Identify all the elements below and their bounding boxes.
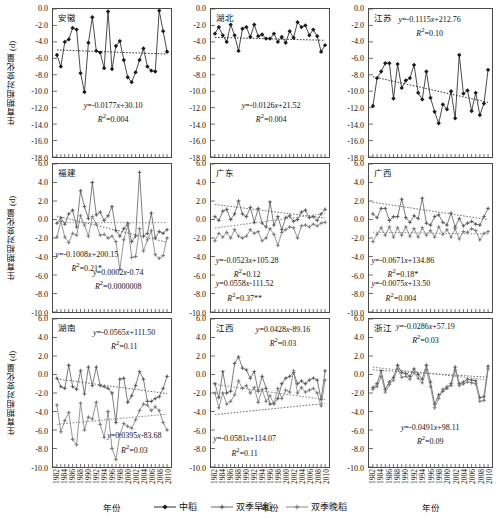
plot-area: 广东y=-0.0523x+105.28R2=0.12y=0.0558x-111.… <box>210 163 330 313</box>
plot-area-wrapper: 安徽y=-0.0177x+30.10R2=0.004 <box>52 8 172 158</box>
panel-title: 江苏 <box>373 11 393 23</box>
panel-row-2: 生育期相对变化量 (d) 6.04.02.00.0-2.0-4.0-6.0-8.… <box>0 163 501 320</box>
panel-anhui: 0.0-2.0-4.0-6.0-8.0-10.0-12.0-14.0-16.0-… <box>22 8 172 158</box>
regression-equation: y=-0.0126x+21.52R2=0.004 <box>242 101 301 126</box>
y-tick-label: -8.0 <box>193 290 206 299</box>
equation-r2: R2=0.03 <box>396 332 455 346</box>
equation-r2: R2=0.0000008 <box>93 278 143 292</box>
x-tick-labels: 1982198419861988199019921994199619982000… <box>52 469 172 501</box>
y-tick-label: 2.0 <box>354 351 364 360</box>
diamond-marker-icon <box>154 502 176 512</box>
equation-text: y=-0.0581x+114.07 <box>213 434 276 445</box>
equation-r2: R2=0.11 <box>213 445 276 459</box>
regression-equation: y=0.0428x-89.16R2=0.03 <box>256 325 310 350</box>
panel-title: 安徽 <box>57 11 77 23</box>
equation-r2: R2=0.18* <box>371 266 434 280</box>
y-tick-label: -10.0 <box>347 464 364 473</box>
y-tick-label: -10.0 <box>347 87 364 96</box>
y-tick-label: 2.0 <box>196 351 206 360</box>
y-tick-label: -6.0 <box>193 271 206 280</box>
x-tick-label: 2000 <box>443 469 452 484</box>
equation-r2: R2=0.37** <box>216 290 274 304</box>
y-tick-label: -14.0 <box>189 120 206 129</box>
panel-title: 福建 <box>57 166 77 178</box>
y-tick-label: 6.0 <box>354 314 364 323</box>
plot-area: 湖南y=-0.0565x+111.50R2=0.11y=0.0395x-83.6… <box>52 318 172 468</box>
panel-title: 广东 <box>215 166 235 178</box>
y-tick-label: 6.0 <box>354 159 364 168</box>
y-tick-label: 0.0 <box>354 4 364 13</box>
y-tick-label: -4.0 <box>193 407 206 416</box>
panel-hubei: 0.0-2.0-4.0-6.0-8.0-10.0-12.0-14.0-16.0-… <box>180 8 330 158</box>
y-tick-label: -2.0 <box>35 389 48 398</box>
regression-equation: y=0.0002x-0.74R2=0.0000008 <box>93 268 143 293</box>
y-tick-label: 0.0 <box>354 215 364 224</box>
legend-label: 双季早稻 <box>236 500 272 513</box>
y-tick-label: -6.0 <box>351 426 364 435</box>
regression-equation: y=-0.0177x+30.10R2=0.004 <box>84 101 143 126</box>
equation-text: y=0.0002x-0.74 <box>93 268 143 279</box>
y-tick-label: 2.0 <box>196 196 206 205</box>
regression-equation: y=-0.0581x+114.07R2=0.11 <box>213 434 276 459</box>
y-tick-label: -6.0 <box>351 54 364 63</box>
equation-text: y=-0.0523x+105.28 <box>216 256 279 267</box>
y-axis-ticks: 0.0-2.0-4.0-6.0-8.0-10.0-12.0-14.0-16.0-… <box>22 8 50 158</box>
y-tick-label: -4.0 <box>35 252 48 261</box>
regression-equation: y=-0.0286x+57.19R2=0.03 <box>396 322 455 347</box>
y-tick-label: -4.0 <box>351 252 364 261</box>
plot-area: 安徽y=-0.0177x+30.10R2=0.004 <box>52 8 172 158</box>
y-tick-label: -2.0 <box>351 234 364 243</box>
plot-area-wrapper: 湖南y=-0.0565x+111.50R2=0.11y=0.0395x-83.6… <box>52 318 172 468</box>
panel-guangxi: 6.04.02.00.0-2.0-4.0-6.0-8.0-10.0广西y=-0.… <box>338 163 493 313</box>
equation-r2: R2=0.11 <box>93 338 155 352</box>
plot-area: 福建y=-0.1008x+200.15R2=0.21*y=0.0002x-0.7… <box>52 163 172 313</box>
equation-text: y=-0.0565x+111.50 <box>93 328 155 339</box>
regression-equation: y=-0.0565x+111.50R2=0.11 <box>93 328 155 353</box>
y-tick-label: 0.0 <box>354 370 364 379</box>
x-tick-label: 2010 <box>485 469 494 484</box>
panel-row-1: 生育期相对变化量 (d) 0.0-2.0-4.0-6.0-8.0-10.0-12… <box>0 8 501 165</box>
y-tick-label: -6.0 <box>35 54 48 63</box>
regression-equation: y=-0.1115x+212.76R2=0.10 <box>399 15 461 40</box>
y-tick-label: -8.0 <box>35 445 48 454</box>
y-axis-ticks: 6.04.02.00.0-2.0-4.0-6.0-8.0-10.0 <box>338 163 366 313</box>
y-axis-ticks: 6.04.02.00.0-2.0-4.0-6.0-8.0-10.0 <box>338 318 366 468</box>
y-tick-label: -4.0 <box>35 407 48 416</box>
legend: 中稻 双季早稻 双季晚稻 <box>0 500 501 513</box>
equation-text: y=-0.0286x+57.19 <box>396 322 455 333</box>
x-tick-label: 2006 <box>468 469 477 484</box>
x-tick-label: 2010 <box>164 469 173 484</box>
star-marker-icon <box>286 502 308 512</box>
equation-r2: R2=0.03 <box>107 442 161 456</box>
equation-text: y=0.0428x-89.16 <box>256 325 310 336</box>
y-tick-label: -8.0 <box>193 70 206 79</box>
plot-area: 广西y=-0.0671x+134.86R2=0.18*y=-0.0075x+13… <box>368 163 493 313</box>
panel-title: 湖南 <box>57 321 77 333</box>
equation-text: y=-0.0177x+30.10 <box>84 101 143 112</box>
y-axis-title-row1: 生育期相对变化量 (d) <box>4 8 20 158</box>
x-tick-label: 1994 <box>418 469 427 484</box>
y-tick-label: 0.0 <box>38 370 48 379</box>
regression-equation: y=0.0395x-83.68R2=0.03 <box>107 431 161 456</box>
equation-text: y=-0.1115x+212.76 <box>399 15 461 26</box>
equation-r2: R2=0.09 <box>401 433 460 447</box>
y-tick-label: -2.0 <box>351 389 364 398</box>
regression-equation: y=-0.0671x+134.86R2=0.18* <box>371 256 434 281</box>
panel-row-3: 生育期相对变化量 (d) 6.04.02.00.0-2.0-4.0-6.0-8.… <box>0 318 501 475</box>
plot-area-wrapper: 浙江y=-0.0286x+57.19R2=0.03y=-0.0491x+98.1… <box>368 318 493 468</box>
y-tick-label: -4.0 <box>35 37 48 46</box>
regression-equation: y=-0.0075x+13.50R2=0.004 <box>371 279 430 304</box>
y-axis-title-row2: 生育期相对变化量 (d) <box>4 163 20 313</box>
equation-text: y=-0.0671x+134.86 <box>371 256 434 267</box>
y-tick-label: 6.0 <box>38 159 48 168</box>
y-tick-label: -14.0 <box>31 120 48 129</box>
y-tick-label: -16.0 <box>347 137 364 146</box>
x-tick-labels: 1982198419861988199019921994199619982000… <box>210 469 330 501</box>
y-axis-ticks: 6.04.02.00.0-2.0-4.0-6.0-8.0-10.0 <box>180 318 208 468</box>
legend-item: 双季晚稻 <box>286 500 347 513</box>
equation-r2: R2=0.004 <box>371 290 430 304</box>
y-tick-label: -14.0 <box>347 120 364 129</box>
legend-item: 中稻 <box>154 500 197 513</box>
y-tick-label: 2.0 <box>354 196 364 205</box>
x-tick-labels: 1982198419861988199019921994199619982000… <box>368 469 493 501</box>
